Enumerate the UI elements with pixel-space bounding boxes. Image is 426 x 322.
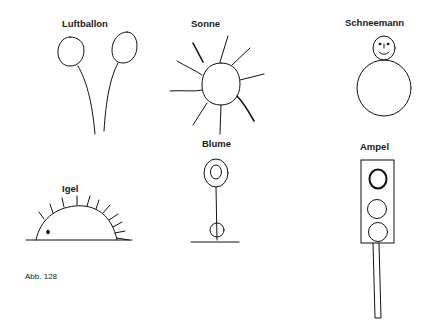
hedgehog-drawing <box>26 196 132 240</box>
sun-drawing <box>170 36 264 134</box>
drawings <box>0 0 426 322</box>
traffic-light-drawing <box>361 160 394 318</box>
snowman-drawing <box>357 36 411 116</box>
balloons-drawing <box>58 32 137 134</box>
flower-drawing <box>191 159 239 242</box>
